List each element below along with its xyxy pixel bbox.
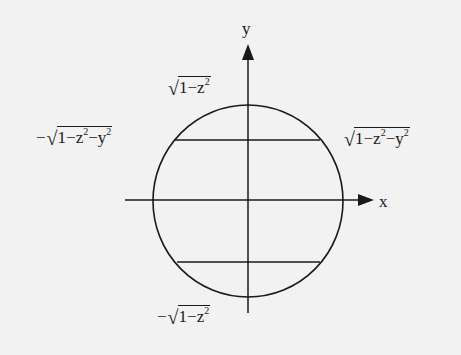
sqrt-icon: √ (344, 129, 355, 149)
x-axis-label: x (379, 193, 388, 210)
sqrt-icon: √ (168, 78, 179, 98)
sqrt-icon: √ (168, 307, 179, 327)
right-x-limit-label: √ 1−z2−y2 (344, 127, 410, 147)
y-axis-arrow-icon (242, 44, 254, 60)
sphere-cross-section-diagram (0, 0, 461, 355)
top-y-limit-label: √ 1−z2 (168, 76, 211, 96)
left-x-limit-label: − √ 1−z2−y2 (36, 126, 112, 146)
y-axis-label: y (242, 20, 251, 37)
x-axis-arrow-icon (358, 194, 374, 206)
sqrt-icon: √ (47, 128, 58, 148)
bottom-y-limit-label: − √ 1−z2 (157, 305, 210, 325)
